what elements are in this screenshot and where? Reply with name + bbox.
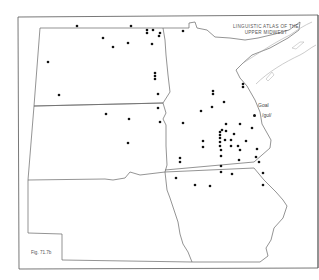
legend-value: /gʊl/ bbox=[262, 112, 272, 118]
data-point bbox=[258, 161, 261, 164]
data-point bbox=[225, 130, 228, 133]
data-point bbox=[230, 145, 233, 148]
data-point bbox=[202, 140, 205, 143]
north-dakota-border bbox=[34, 28, 170, 106]
data-point bbox=[262, 184, 265, 187]
data-point bbox=[158, 35, 161, 38]
data-point bbox=[219, 141, 222, 144]
data-point bbox=[237, 145, 240, 148]
data-point bbox=[230, 139, 233, 142]
data-point bbox=[202, 146, 205, 149]
data-point bbox=[102, 37, 105, 40]
data-point bbox=[255, 156, 258, 159]
iowa-border bbox=[165, 168, 287, 262]
data-point bbox=[130, 25, 133, 28]
data-point bbox=[146, 29, 149, 32]
data-point bbox=[233, 133, 236, 136]
data-point bbox=[211, 106, 214, 109]
map-title: LINGUISTIC ATLAS OF THE UPPER MIDWEST bbox=[226, 24, 306, 36]
map-canvas bbox=[0, 0, 319, 280]
data-point bbox=[157, 93, 160, 96]
data-point bbox=[223, 101, 226, 104]
data-point bbox=[220, 165, 223, 168]
data-point bbox=[194, 184, 197, 187]
data-point bbox=[182, 30, 185, 33]
apostle-islands bbox=[266, 72, 274, 81]
data-point bbox=[127, 42, 130, 45]
data-point bbox=[175, 177, 178, 180]
minnesota-border bbox=[163, 22, 300, 170]
data-point bbox=[251, 127, 254, 130]
data-point bbox=[262, 172, 265, 175]
data-point bbox=[231, 173, 234, 176]
data-point bbox=[127, 142, 130, 145]
data-point bbox=[212, 93, 215, 96]
data-point bbox=[219, 134, 222, 137]
data-point bbox=[220, 155, 223, 158]
data-point bbox=[219, 137, 222, 140]
data-point bbox=[220, 149, 223, 152]
data-point bbox=[159, 121, 162, 124]
data-point bbox=[152, 29, 155, 32]
data-point bbox=[219, 145, 222, 148]
data-point bbox=[128, 118, 131, 121]
data-point bbox=[238, 159, 241, 162]
data-point bbox=[239, 149, 242, 152]
data-point bbox=[220, 171, 223, 174]
data-point bbox=[47, 61, 50, 64]
data-point bbox=[239, 123, 242, 126]
data-point bbox=[58, 94, 61, 97]
data-point bbox=[154, 78, 157, 81]
figure-label: Fig. 71.7b bbox=[31, 250, 51, 255]
map-title-line2: UPPER MIDWEST bbox=[226, 30, 306, 36]
nebraska-border bbox=[28, 172, 192, 262]
data-point bbox=[105, 113, 108, 116]
data-point bbox=[112, 46, 115, 49]
data-point bbox=[256, 148, 259, 151]
data-point bbox=[219, 131, 222, 134]
data-point bbox=[154, 72, 157, 75]
data-point bbox=[146, 32, 149, 35]
data-point bbox=[224, 139, 227, 142]
isle-royale bbox=[292, 42, 304, 49]
data-point bbox=[76, 25, 79, 28]
data-point bbox=[242, 86, 245, 89]
data-point bbox=[159, 32, 162, 35]
lake-superior-south-shore bbox=[256, 45, 316, 84]
legend-heading: Goal bbox=[258, 102, 269, 108]
data-point bbox=[179, 157, 182, 160]
data-point bbox=[221, 129, 224, 132]
south-dakota-border bbox=[28, 103, 167, 180]
data-point bbox=[245, 140, 248, 143]
data-point bbox=[200, 110, 203, 113]
data-point bbox=[242, 83, 245, 86]
data-point bbox=[225, 123, 228, 126]
data-points bbox=[47, 25, 265, 188]
data-point bbox=[182, 122, 185, 125]
data-point bbox=[151, 43, 154, 46]
data-point bbox=[209, 185, 212, 188]
data-point bbox=[157, 107, 160, 110]
data-point bbox=[212, 90, 215, 93]
data-point bbox=[179, 161, 182, 164]
legend-dot-icon bbox=[253, 114, 256, 117]
data-point bbox=[154, 75, 157, 78]
